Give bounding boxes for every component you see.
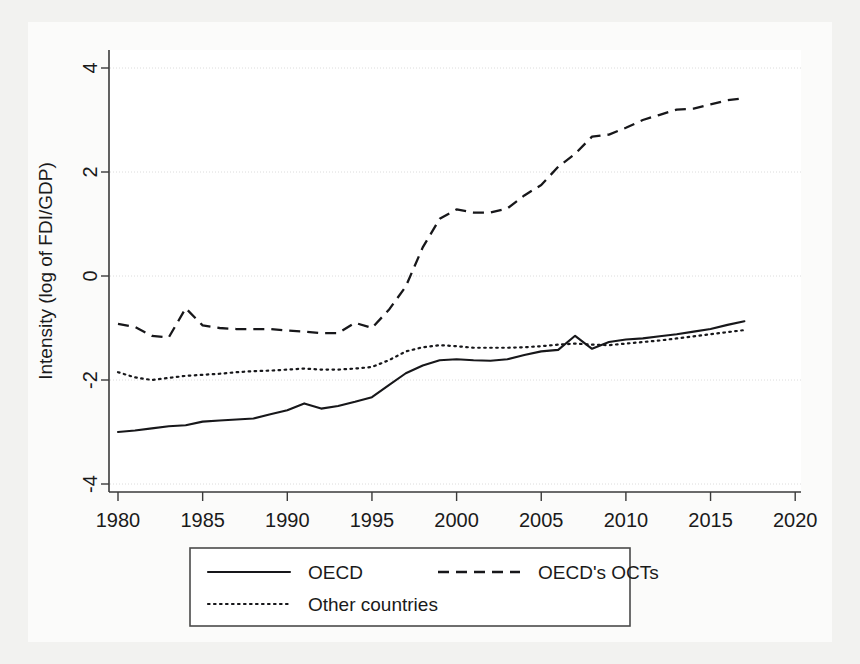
x-axis-ticks: 198019851990199520002005201020152020	[96, 492, 818, 531]
legend-label: Other countries	[308, 594, 438, 615]
y-tick-label: 4	[79, 62, 101, 73]
y-tick-label: -2	[79, 371, 101, 389]
y-tick-label: -4	[79, 475, 101, 493]
x-tick-label: 1985	[180, 509, 225, 531]
y-tick-label: 2	[79, 166, 101, 177]
chart-legend: OECDOECD's OCTsOther countries	[190, 548, 659, 626]
figure-container: -4-2024 19801985199019952000200520102015…	[0, 0, 860, 664]
x-tick-label: 2010	[604, 509, 649, 531]
y-axis-title: Intensity (log of FDI/GDP)	[35, 162, 56, 380]
x-tick-label: 1995	[350, 509, 395, 531]
x-tick-label: 1980	[96, 509, 141, 531]
y-axis-ticks: -4-2024	[79, 62, 109, 492]
legend-label: OECD	[308, 562, 363, 583]
y-tick-label: 0	[79, 270, 101, 281]
x-tick-label: 2000	[434, 509, 479, 531]
plot-background	[109, 50, 801, 492]
x-tick-label: 2015	[688, 509, 733, 531]
legend-label: OECD's OCTs	[538, 562, 659, 583]
x-tick-label: 2005	[519, 509, 564, 531]
x-tick-label: 1990	[265, 509, 310, 531]
chart-svg: -4-2024 19801985199019952000200520102015…	[0, 0, 860, 664]
x-tick-label: 2020	[773, 509, 818, 531]
